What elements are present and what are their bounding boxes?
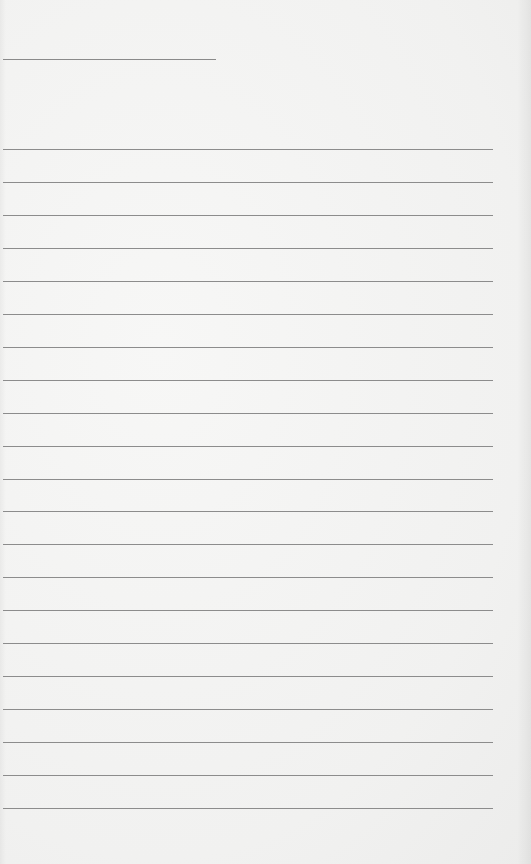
ruled-line — [3, 182, 493, 183]
ruled-line — [3, 314, 493, 315]
ruled-line — [3, 511, 493, 512]
ruled-line — [3, 544, 493, 545]
ruled-line — [3, 413, 493, 414]
ruled-line — [3, 215, 493, 216]
ruled-line — [3, 709, 493, 710]
ruled-line — [3, 446, 493, 447]
ruled-line — [3, 775, 493, 776]
paper-edge-shadow-left — [0, 0, 6, 864]
ruled-line — [3, 643, 493, 644]
header-name-line — [3, 59, 216, 60]
ruled-line — [3, 479, 493, 480]
paper-edge-shadow-right — [517, 0, 531, 864]
paper-sheet — [0, 0, 531, 864]
ruled-line — [3, 577, 493, 578]
ruled-line — [3, 347, 493, 348]
ruled-line — [3, 676, 493, 677]
ruled-line — [3, 149, 493, 150]
ruled-line — [3, 742, 493, 743]
ruled-line — [3, 808, 493, 809]
ruled-line — [3, 281, 493, 282]
ruled-line — [3, 610, 493, 611]
ruled-line — [3, 248, 493, 249]
ruled-line — [3, 380, 493, 381]
